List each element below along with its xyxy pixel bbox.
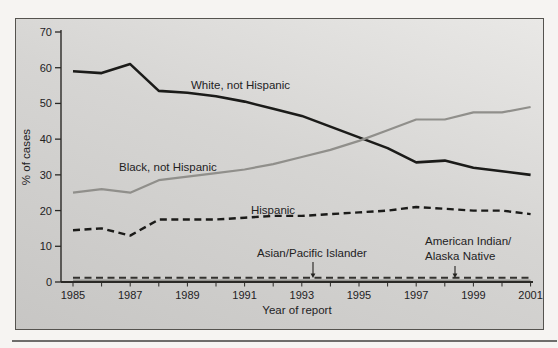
series-label: Alaska Native	[425, 250, 495, 262]
series-label: Hispanic	[251, 204, 295, 216]
series-label: Asian/Pacific Islander	[257, 247, 367, 259]
x-tick-label: 2001	[518, 289, 542, 301]
x-tick-label: 1985	[61, 289, 85, 301]
x-tick-label: 1995	[347, 289, 371, 301]
page-divider-line	[12, 340, 557, 342]
x-tick-label: 1997	[404, 289, 428, 301]
series-line-white-not-hispanic	[73, 64, 531, 175]
y-tick-label: 20	[40, 205, 52, 217]
chart-plot-area: 0102030405060701985198719891991199319951…	[15, 18, 544, 330]
line-chart: 0102030405060701985198719891991199319951…	[16, 19, 543, 329]
y-tick-label: 50	[40, 97, 52, 109]
y-tick-label: 30	[40, 169, 52, 181]
x-tick-label: 1989	[175, 289, 199, 301]
y-tick-label: 60	[40, 62, 52, 74]
y-axis-title: % of cases	[20, 129, 32, 185]
x-tick-label: 1999	[461, 289, 485, 301]
x-tick-label: 1993	[290, 289, 314, 301]
y-tick-label: 40	[40, 133, 52, 145]
x-axis-title: Year of report	[262, 304, 332, 316]
series-label: White, not Hispanic	[191, 79, 290, 91]
series-label: Black, not Hispanic	[119, 161, 217, 173]
y-tick-label: 0	[46, 276, 52, 288]
series-line-hispanic	[73, 207, 531, 236]
y-tick-label: 70	[40, 26, 52, 38]
series-label: American Indian/	[425, 235, 512, 247]
y-tick-label: 10	[40, 240, 52, 252]
x-tick-label: 1991	[232, 289, 256, 301]
series-line-black-not-hispanic	[73, 107, 531, 193]
x-tick-label: 1987	[118, 289, 142, 301]
textbook-figure: 0102030405060701985198719891991199319951…	[0, 0, 558, 348]
